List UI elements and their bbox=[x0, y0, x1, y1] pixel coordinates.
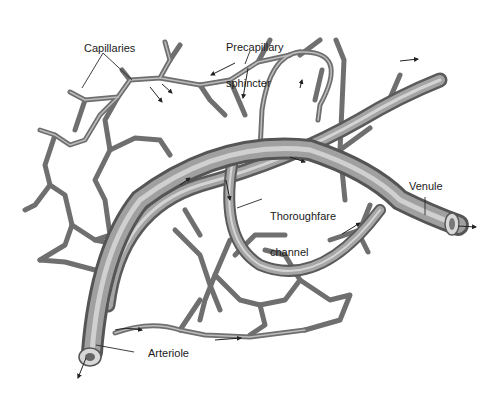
label-arteriole: Arteriole bbox=[148, 347, 189, 359]
label-precapillary-line2: sphincter bbox=[226, 77, 283, 89]
label-capillaries: Capillaries bbox=[84, 42, 135, 54]
venule-opening bbox=[445, 213, 459, 235]
capillary-bed-diagram: Capillaries Precapillary sphincter Thoro… bbox=[0, 0, 492, 399]
label-precapillary-line1: Precapillary bbox=[226, 41, 283, 53]
label-thoroughfare-channel: Thoroughfare channel bbox=[270, 186, 336, 282]
arteriole-opening bbox=[79, 348, 101, 366]
label-thoroughfare-line1: Thoroughfare bbox=[270, 210, 336, 222]
label-thoroughfare-line2: channel bbox=[270, 246, 336, 258]
label-precapillary-sphincter: Precapillary sphincter bbox=[226, 17, 283, 113]
label-venule: Venule bbox=[409, 180, 443, 192]
